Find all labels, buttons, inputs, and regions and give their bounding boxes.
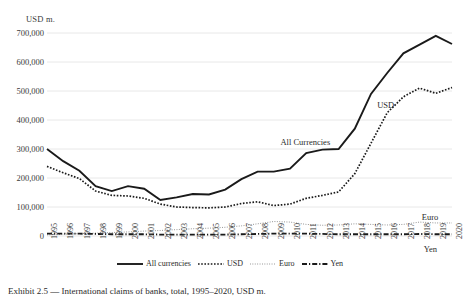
chart-svg [0,0,460,250]
y-axis-tick-label: 600,000 [0,57,44,67]
legend-swatch [117,260,143,268]
x-axis-tick-label: 2014 [358,223,367,239]
series-annotation-euro: Euro [422,212,439,222]
x-axis-tick-label: 1997 [83,223,92,239]
series-annotation-all-currencies: All Currencies [280,137,330,147]
x-axis-tick-label: 2005 [212,223,221,239]
figure-caption: Exhibit 2.5 — International claims of ba… [8,286,454,296]
x-axis-tick-label: 2010 [293,223,302,239]
legend-swatch [302,260,328,268]
x-axis-tick-label: 2018 [423,223,432,239]
y-axis-tick-label: 0 [0,231,44,241]
x-axis-tick-label: 2001 [147,223,156,239]
legend-label: USD [227,259,243,268]
x-axis-tick-label: 2013 [342,223,351,239]
x-axis-tick-label: 1995 [50,223,59,239]
legend-swatch [250,260,276,268]
series-annotation-yen: Yen [424,244,437,254]
y-axis-tick-label: 500,000 [0,86,44,96]
x-axis-tick-label: 2019 [439,223,448,239]
x-axis-tick-label: 2009 [277,223,286,239]
series-annotation-usd: USD [377,100,394,110]
x-axis-tick-label: 2016 [390,223,399,239]
x-axis-tick-label: 1996 [66,223,75,239]
x-axis-tick-label: 2004 [196,223,205,239]
x-axis-tick-label: 2020 [455,223,464,239]
legend-swatch [198,260,224,268]
y-axis-tick-label: 400,000 [0,115,44,125]
y-axis-tick-label: 200,000 [0,173,44,183]
y-axis-tick-label: 300,000 [0,144,44,154]
x-axis-tick-label: 1998 [99,223,108,239]
legend-item-euro: Euro [250,259,295,268]
x-axis-tick-label: 2003 [180,223,189,239]
series-line-all-currencies [47,36,452,200]
x-axis-tick-label: 2015 [374,223,383,239]
y-axis-tick-label: 700,000 [0,28,44,38]
legend-item-usd: USD [198,259,243,268]
y-axis-unit-label: USD m. [26,14,55,24]
legend-item-yen: Yen [302,259,344,268]
x-axis-tick-label: 2012 [326,223,335,239]
x-axis-tick-label: 2002 [164,223,173,239]
x-axis-tick-label: 2007 [245,223,254,239]
x-axis-tick-label: 2006 [228,223,237,239]
chart-plot-area: USD m. 0100,000200,000300,000400,000500,… [0,0,460,250]
legend-label: Euro [279,259,295,268]
x-axis-tick-label: 2017 [407,223,416,239]
x-axis-tick-label: 2008 [261,223,270,239]
legend-label: Yen [331,259,344,268]
chart-legend: All currenciesUSDEuroYen [0,259,460,268]
y-axis-tick-label: 100,000 [0,202,44,212]
legend-item-all-currencies: All currencies [117,259,191,268]
x-axis-tick-label: 2011 [309,223,318,239]
x-axis-tick-label: 2000 [131,223,140,239]
x-axis-tick-label: 1999 [115,223,124,239]
legend-label: All currencies [146,259,191,268]
